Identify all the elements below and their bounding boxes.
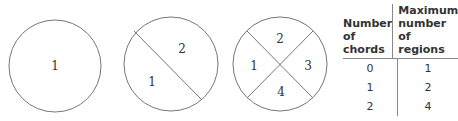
table-header: Number of chords Maximum number of regio…: [343, 4, 458, 59]
table-row: 1 2: [343, 78, 458, 97]
cell-chords: 0: [343, 59, 397, 78]
header-chords: Number of chords: [343, 4, 392, 58]
circle-two-chords: 1 2 3 4: [233, 17, 327, 111]
region-label: 1: [148, 75, 156, 89]
region-label: 3: [304, 59, 312, 73]
cell-regions: 2: [397, 78, 458, 97]
circle-no-chords: 1: [9, 20, 101, 112]
cell-regions: 4: [397, 97, 458, 116]
region-label: 1: [250, 59, 258, 73]
chord: [134, 31, 201, 99]
circle-one-chord: 1 2: [124, 17, 218, 111]
table-row: 0 1: [343, 59, 458, 78]
region-label: 2: [276, 32, 284, 46]
table-row: 2 4: [343, 97, 458, 116]
chords-regions-table: Number of chords Maximum number of regio…: [343, 4, 458, 116]
region-label: 1: [51, 59, 59, 73]
cell-chords: 2: [343, 97, 397, 116]
header-regions: Maximum number of regions: [392, 4, 458, 58]
cell-regions: 1: [397, 59, 458, 78]
region-label: 2: [178, 42, 186, 56]
cell-chords: 1: [343, 78, 397, 97]
circle-diagrams: 1 1 2 1 2 3 4: [0, 0, 340, 121]
region-label: 4: [277, 85, 285, 99]
